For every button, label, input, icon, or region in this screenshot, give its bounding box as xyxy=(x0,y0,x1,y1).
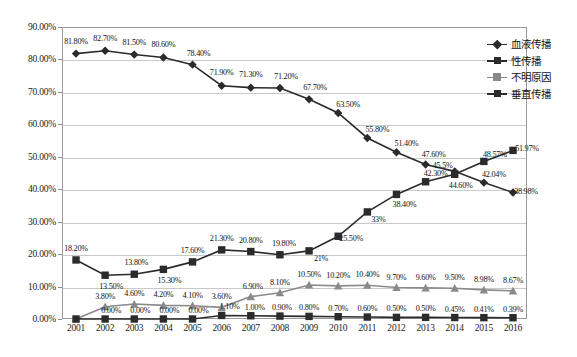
data-label: 4.10% xyxy=(183,290,203,299)
legend-item-unknown[interactable]: 不明原因 xyxy=(487,69,573,86)
data-label: 0.50% xyxy=(387,304,407,313)
data-label: 8.10% xyxy=(270,277,290,286)
data-label: 80.60% xyxy=(152,40,176,49)
data-label: 0.70% xyxy=(328,303,348,312)
data-label: 82.70% xyxy=(93,33,117,42)
y-axis-tick-mark xyxy=(58,189,62,190)
x-axis-tick-label: 2010 xyxy=(329,323,347,333)
y-axis-tick-label: 40.00% xyxy=(28,184,56,194)
legend-label: 不明原因 xyxy=(511,72,551,83)
data-label: 0.60% xyxy=(357,304,377,313)
y-axis-tick-label: 80.00% xyxy=(28,54,56,64)
y-axis-tick-mark xyxy=(58,124,62,125)
y-axis-tick-label: 10.00% xyxy=(28,282,56,292)
data-label: 25.50% xyxy=(339,234,363,243)
data-label: 21.30% xyxy=(210,233,234,242)
data-label: 10.40% xyxy=(355,270,379,279)
data-label: 0.39% xyxy=(503,304,523,313)
data-label: 48.57% xyxy=(483,150,507,159)
data-label: 0.41% xyxy=(474,304,494,313)
data-label: 8.67% xyxy=(503,275,523,284)
y-axis-tick-label: 0.00% xyxy=(32,314,56,324)
data-label: 20.80% xyxy=(239,235,263,244)
data-label: 42.30% xyxy=(424,168,448,177)
data-label: 17.60% xyxy=(181,245,205,254)
y-axis-tick-mark xyxy=(58,319,62,320)
data-label: 42.04% xyxy=(482,169,506,178)
x-axis-tick-label: 2006 xyxy=(213,323,231,333)
x-axis-tick-label: 2012 xyxy=(387,323,405,333)
data-label: 0.00% xyxy=(101,306,121,315)
data-label: 51.97% xyxy=(515,144,539,153)
data-label: 63.50% xyxy=(336,99,360,108)
data-label: 51.40% xyxy=(395,139,419,148)
data-label: 0.80% xyxy=(299,303,319,312)
x-axis-tick-label: 2003 xyxy=(125,323,143,333)
data-label: 71.30% xyxy=(239,69,263,78)
gridline xyxy=(63,190,526,191)
legend-marker-square-icon xyxy=(487,56,507,66)
data-label: 67.70% xyxy=(303,83,327,92)
data-label: 38.98% xyxy=(514,186,538,195)
data-label: 13.50% xyxy=(99,282,123,291)
y-axis-tick-label: 70.00% xyxy=(28,87,56,97)
legend-marker-diamond-icon xyxy=(487,39,507,49)
x-axis-tick-label: 2007 xyxy=(242,323,260,333)
y-axis-tick-label: 90.00% xyxy=(28,22,56,32)
data-label: 6.90% xyxy=(243,281,263,290)
gridline xyxy=(63,255,526,256)
data-label: 71.20% xyxy=(274,71,298,80)
data-label: 0.00% xyxy=(130,306,150,315)
data-label: 10.20% xyxy=(326,270,350,279)
y-axis-tick-label: 30.00% xyxy=(28,217,56,227)
x-axis-tick-label: 2001 xyxy=(67,323,85,333)
legend-marker-square-icon xyxy=(487,89,507,99)
x-axis-tick-label: 2014 xyxy=(446,323,464,333)
gridline xyxy=(63,60,526,61)
data-label: 4.20% xyxy=(153,290,173,299)
data-label: 38.40% xyxy=(393,200,417,209)
data-label: 55.80% xyxy=(365,124,389,133)
legend-item-blood[interactable]: 血液传播 xyxy=(487,36,573,53)
legend: 血液传播性传播不明原因垂直传播 xyxy=(487,36,573,102)
x-axis-tick-label: 2005 xyxy=(183,323,201,333)
legend-label: 血液传播 xyxy=(511,39,551,50)
data-label: 71.90% xyxy=(210,67,234,76)
x-axis-tick-label: 2016 xyxy=(504,323,522,333)
data-label: 9.60% xyxy=(416,272,436,281)
x-axis-tick-label: 2011 xyxy=(358,323,376,333)
x-axis-tick-label: 2004 xyxy=(154,323,172,333)
y-axis-tick-mark xyxy=(58,254,62,255)
legend-item-sexual[interactable]: 性传播 xyxy=(487,53,573,70)
x-axis-tick-label: 2008 xyxy=(271,323,289,333)
data-label: 4.60% xyxy=(124,289,144,298)
data-label: 3.80% xyxy=(95,291,115,300)
data-label: 21% xyxy=(314,253,328,262)
y-axis-tick-mark xyxy=(58,92,62,93)
gridline xyxy=(63,158,526,159)
gridline xyxy=(63,93,526,94)
data-label: 0.00% xyxy=(189,306,209,315)
x-axis-tick-label: 2015 xyxy=(475,323,493,333)
data-label: 0.90% xyxy=(272,303,292,312)
x-axis-tick-label: 2013 xyxy=(416,323,434,333)
data-label: 13.80% xyxy=(124,258,148,267)
data-label: 78.40% xyxy=(187,48,211,57)
y-axis-tick-mark xyxy=(58,287,62,288)
legend-item-vertical[interactable]: 垂直传播 xyxy=(487,86,573,103)
data-label: 0.50% xyxy=(416,304,436,313)
data-label: 47.60% xyxy=(422,149,446,158)
data-label: 81.80% xyxy=(64,36,88,45)
data-label: 9.70% xyxy=(387,272,407,281)
data-label: 18.20% xyxy=(64,243,88,252)
legend-label: 性传播 xyxy=(511,56,541,67)
y-axis-tick-mark xyxy=(58,59,62,60)
legend-label: 垂直传播 xyxy=(511,89,551,100)
data-label: 10.50% xyxy=(297,269,321,278)
y-axis-tick-mark xyxy=(58,157,62,158)
data-label: 3.60% xyxy=(212,292,232,301)
data-label: 44.60% xyxy=(449,181,473,190)
data-label: 33% xyxy=(371,214,385,223)
y-axis-tick-mark xyxy=(58,222,62,223)
x-axis-tick-label: 2009 xyxy=(300,323,318,333)
